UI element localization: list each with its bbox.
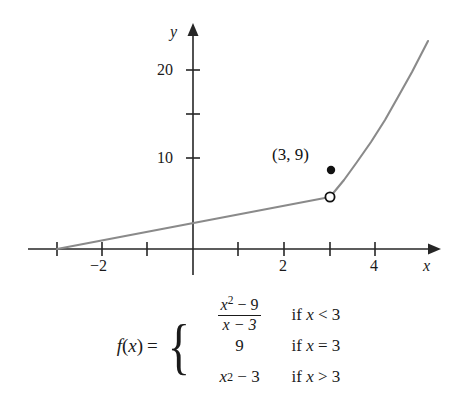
graph-canvas <box>0 0 457 290</box>
condition-variable: x <box>306 367 314 386</box>
case-row: x2 − 9 x − 3 if x < 3 <box>197 300 341 331</box>
y-axis-arrowhead <box>188 23 199 36</box>
x-axis-label: x <box>423 258 430 274</box>
case-row: 9 if x = 3 <box>197 331 341 362</box>
y-axis-label: y <box>170 24 177 40</box>
equals-sign: = <box>147 335 158 357</box>
paren-close: ) <box>137 335 143 356</box>
case-expression: x2 − 3 <box>197 367 283 387</box>
cases-list: x2 − 9 x − 3 if x < 3 9 if x = 3 x2 − 3 … <box>197 300 341 393</box>
x-tick-label-4: 4 <box>370 258 378 274</box>
numerator-rest: − 9 <box>237 296 258 313</box>
case-condition: if x = 3 <box>292 336 341 356</box>
expression-base: x <box>219 367 227 387</box>
piecewise-formula: f(x) = { x2 − 9 x − 3 if x < 3 <box>0 288 457 404</box>
point-annotation-label: (3, 9) <box>272 146 309 163</box>
case-expression: 9 <box>197 336 283 356</box>
cases-brace: { <box>167 321 189 372</box>
curve-right-branch <box>330 41 428 197</box>
x-axis-arrowhead <box>428 244 441 255</box>
condition-relation: < 3 <box>318 305 340 324</box>
case-condition: if x < 3 <box>292 305 341 325</box>
y-tick-label-20: 20 <box>157 62 173 78</box>
numerator-base: x <box>221 296 228 313</box>
condition-relation: = 3 <box>318 336 340 355</box>
x-tick-label-neg2: −2 <box>90 258 107 274</box>
x-tick-label-2: 2 <box>279 258 287 274</box>
y-tick-label-10: 10 <box>157 150 173 166</box>
expression-rest: − 3 <box>237 367 259 387</box>
function-arg: x <box>128 335 136 356</box>
condition-relation: > 3 <box>318 367 340 386</box>
piecewise-function-figure: y x 20 10 −2 2 4 (3, 9) f(x) = { x2 − 9 <box>0 0 457 404</box>
case-expression: x2 − 9 x − 3 <box>197 297 283 334</box>
condition-variable: x <box>306 305 314 324</box>
function-name: f(x) <box>117 335 143 357</box>
condition-variable: x <box>306 336 314 355</box>
condition-if: if <box>292 305 302 324</box>
open-circle-marker <box>325 192 334 201</box>
condition-if: if <box>292 336 302 355</box>
case-row: x2 − 3 if x > 3 <box>197 362 341 393</box>
x-axis <box>28 244 441 255</box>
y-axis <box>188 23 199 275</box>
numerator-exponent: 2 <box>228 293 234 305</box>
condition-if: if <box>292 367 302 386</box>
fraction-numerator: x2 − 9 <box>218 297 262 315</box>
filled-point-marker <box>327 166 335 174</box>
fraction: x2 − 9 x − 3 <box>218 297 262 334</box>
case-condition: if x > 3 <box>292 367 341 387</box>
